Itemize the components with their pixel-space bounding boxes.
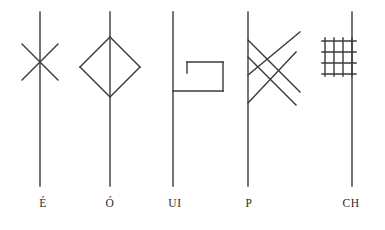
- glyph-label-glyph-ch: CH: [342, 196, 359, 210]
- glyph-label-glyph-o-acute: Ó: [106, 196, 115, 210]
- glyph-label-glyph-ui: UI: [168, 196, 181, 210]
- glyph-o-acute[interactable]: [80, 12, 140, 186]
- diamond-lower-left: [80, 67, 110, 97]
- glyph-group-container: [22, 12, 356, 186]
- diagonal-up-1: [248, 32, 300, 75]
- diamond-upper-right: [110, 37, 140, 67]
- glyph-e-acute[interactable]: [22, 12, 58, 186]
- glyph-label-row: ÉÓUIPCH: [0, 196, 385, 220]
- diamond-lower-right: [110, 67, 140, 97]
- glyph-ui[interactable]: [173, 12, 223, 186]
- diagonal-up-2: [248, 52, 296, 103]
- lattice-grid: [322, 38, 356, 76]
- glyph-ch[interactable]: [322, 12, 356, 186]
- glyph-p[interactable]: [248, 12, 300, 186]
- diagonal-down-1: [248, 40, 300, 92]
- glyph-chart-page: ÉÓUIPCH: [0, 0, 385, 230]
- diamond-upper-left: [80, 37, 110, 67]
- glyph-label-glyph-e-acute: É: [39, 196, 47, 210]
- glyph-label-glyph-p: P: [246, 196, 253, 210]
